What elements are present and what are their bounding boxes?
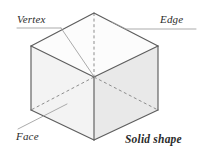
caption-solid-shape: Solid shape — [125, 134, 182, 146]
label-vertex: Vertex — [17, 14, 46, 25]
solid-shape-figure: Vertex Edge Face Solid shape — [0, 0, 198, 155]
label-edge: Edge — [160, 14, 183, 25]
label-face: Face — [16, 131, 39, 142]
